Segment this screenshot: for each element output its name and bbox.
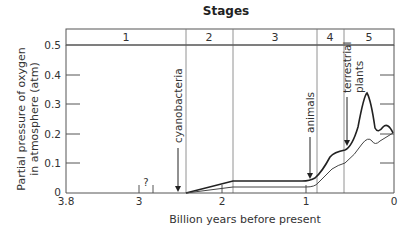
uncertain-marker: ? [143,177,148,188]
y-axis-label-line2: in atmosphere (atm) [28,62,41,175]
animals-label: animals [304,92,316,133]
y-tick-0.1: 0.1 [44,157,61,169]
x-tick-2: 2 [219,195,226,207]
arrowhead-icon [344,140,350,146]
x-tick-3: 3 [136,195,143,207]
chart-svg: 1 2 3 4 5 [0,0,412,236]
arrowhead-icon [307,173,313,179]
stage-labels: 1 2 3 4 5 [123,31,373,44]
lower-oxygen-curve [186,133,393,193]
plants-label: plants [353,61,365,93]
stage-3-label: 3 [272,31,279,44]
x-axis-label: Billion years before present [169,213,321,226]
y-tick-0.5: 0.5 [44,39,61,51]
terrestrial-label: terrestrial [341,42,353,93]
oxygen-history-chart: Stages 1 2 3 4 5 [0,0,412,236]
stage-4-label: 4 [327,31,334,44]
y-tick-0.2: 0.2 [44,128,61,140]
stage-dividers [186,29,344,193]
y-axis-label: Partial pressure of oxygen in atmosphere… [15,47,41,190]
stage-2-label: 2 [206,31,213,44]
upper-oxygen-curve [186,93,393,193]
stage-5-label: 5 [366,31,373,44]
x-tick-0: 0 [391,195,398,207]
y-tick-0.4: 0.4 [44,69,61,81]
annotation-labels: cyanobacteria animals terrestrial plants [172,42,365,143]
arrowheads [175,140,350,192]
x-tick-3.8: 3.8 [58,195,75,207]
y-tick-0.3: 0.3 [44,98,61,110]
stage-1-label: 1 [123,31,130,44]
x-tick-1: 1 [303,195,310,207]
x-tick-labels: 3.8 3 2 1 0 [58,195,398,207]
y-tick-labels: 0.5 0.4 0.3 0.2 0.1 0 [44,39,61,198]
arrowhead-icon [175,186,181,192]
annotation-arrows [178,97,347,188]
y-axis-label-line1: Partial pressure of oxygen [15,47,28,190]
cyanobacteria-label: cyanobacteria [172,68,184,143]
